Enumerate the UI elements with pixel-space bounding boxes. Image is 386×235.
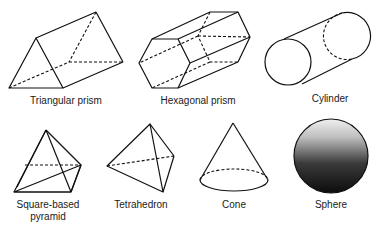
label-tetrahedron: Tetrahedron xyxy=(96,199,186,211)
label-sphere: Sphere xyxy=(301,199,361,211)
label-cylinder: Cylinder xyxy=(280,93,380,105)
triangular-prism-icon xyxy=(9,12,123,88)
label-cone: Cone xyxy=(204,199,264,211)
hexagonal-prism-icon xyxy=(139,12,250,88)
square-based-pyramid-icon xyxy=(14,130,81,192)
sphere-icon xyxy=(294,119,368,193)
tetrahedron-icon xyxy=(107,124,174,192)
cylinder-icon xyxy=(265,12,371,85)
label-square-based-pyramid: Square-based pyramid xyxy=(0,199,96,223)
cone-icon xyxy=(200,123,268,191)
label-triangular-prism: Triangular prism xyxy=(16,95,116,107)
label-hexagonal-prism: Hexagonal prism xyxy=(148,95,248,107)
